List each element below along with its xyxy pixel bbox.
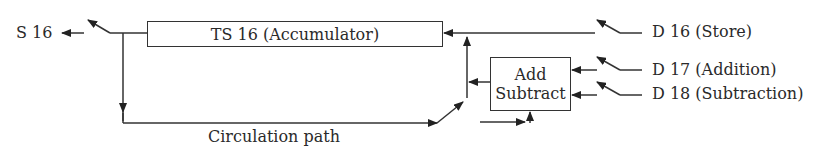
adder-label-add: Add bbox=[514, 65, 546, 84]
adder-label-subtract: Subtract bbox=[495, 84, 566, 103]
input-label-d16: D 16 (Store) bbox=[652, 24, 752, 40]
input-label-d18: D 18 (Subtraction) bbox=[652, 86, 803, 102]
accumulator-label: TS 16 (Accumulator) bbox=[211, 25, 379, 44]
input-label-d17: D 17 (Addition) bbox=[652, 62, 776, 78]
output-label-s16: S 16 bbox=[16, 25, 52, 41]
circulation-path-label: Circulation path bbox=[208, 129, 340, 145]
add-subtract-box: Add Subtract bbox=[490, 57, 571, 111]
accumulator-box: TS 16 (Accumulator) bbox=[147, 21, 443, 47]
